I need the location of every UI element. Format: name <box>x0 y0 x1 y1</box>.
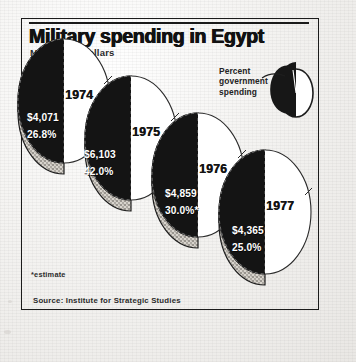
pie-chart-stage <box>0 0 356 362</box>
pie-chart-svg <box>0 0 356 362</box>
pie-percent-value-1976: 30.0% <box>165 205 194 216</box>
pie-amount-1975: $6,103 <box>84 149 116 160</box>
pie-amount-1974: $4,071 <box>27 112 59 123</box>
source-line: Source: Institute for Strategic Studies <box>33 296 181 305</box>
pie-1977[interactable] <box>219 150 311 285</box>
pie-percent-1975: 42.0% <box>84 166 113 177</box>
pie-percent-1976: 30.0%* <box>165 205 198 216</box>
pie-percent-1977: 25.0% <box>232 242 261 253</box>
pie-year-label-1976: 1976 <box>199 162 227 176</box>
footnote: *estimate <box>31 270 66 279</box>
legend-label: Percent government spending <box>219 66 291 97</box>
pie-year-label-1977: 1977 <box>266 199 294 213</box>
pie-percent-1974: 26.8% <box>27 129 56 140</box>
pie-year-label-1975: 1975 <box>132 125 160 139</box>
estimate-asterisk-1976: * <box>194 205 198 216</box>
pie-amount-1977: $4,365 <box>232 225 264 236</box>
pie-year-label-1974: 1974 <box>65 88 93 102</box>
pie-amount-1976: $4,859 <box>165 188 197 199</box>
